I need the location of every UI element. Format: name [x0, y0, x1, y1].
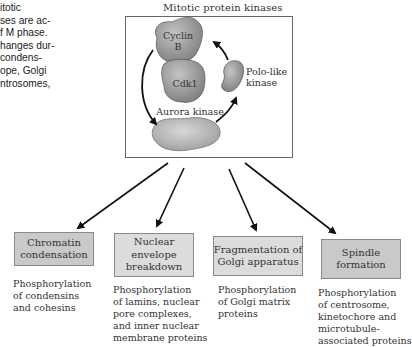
cycle-arrow-right-upper — [214, 42, 228, 60]
outcome-desc-golgi: Phosphorylation of Golgi matrix proteins — [218, 284, 296, 320]
cyclin-b-label: Cyclin B — [160, 30, 196, 52]
aurora-kinase-shape — [152, 118, 220, 151]
arrow-to-chromatin — [78, 163, 168, 228]
outcome-box-golgi: Fragmentation of Golgi apparatus — [213, 236, 303, 276]
outcome-box-chromatin: Chromatin condensation — [14, 232, 94, 266]
outcome-desc-spindle: Phosphorylation of centrosome, kinetocho… — [318, 287, 412, 347]
outcome-desc-nuclear-envelope: Phosphorylation of lamins, nuclear pore … — [113, 284, 208, 344]
arrow-to-golgi — [229, 169, 256, 230]
polo-like-kinase-label: Polo-like kinase — [246, 66, 292, 88]
outcome-box-nuclear-envelope: Nuclear envelope breakdown — [114, 233, 194, 277]
outcome-desc-chromatin: Phosphorylation of condensins and cohesi… — [13, 278, 91, 314]
cdk1-label: Cdk1 — [170, 78, 200, 89]
arrow-to-nuclear-envelope — [157, 168, 184, 226]
outcome-box-spindle: Spindle formation — [321, 239, 401, 279]
arrow-to-spindle — [245, 163, 335, 233]
polo-like-kinase-shape — [222, 61, 244, 92]
aurora-kinase-label: Aurora kinase — [152, 106, 228, 117]
